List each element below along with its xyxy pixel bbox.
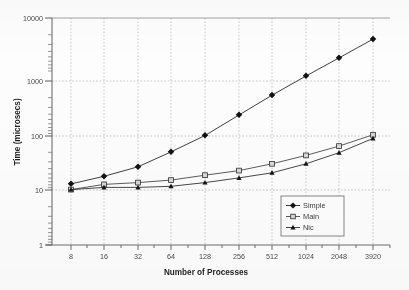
figure-background [0,0,409,290]
data-point [169,178,174,183]
square-marker-icon [291,214,296,219]
data-point [270,161,275,166]
chart-figure: 10000 1000 100 10 1 8 16 32 64 128 256 5… [0,0,409,290]
x-tick-label-512: 512 [266,252,278,261]
x-tick-label-2048: 2048 [331,252,347,261]
y-tick-label-1000: 1000 [27,77,43,86]
x-axis-title: Number of Processes [164,268,249,277]
x-tick-label-128: 128 [199,252,211,261]
data-point [203,173,208,178]
data-point [136,180,141,185]
legend-label-nic: Nic [303,223,314,232]
x-tick-label-256: 256 [233,252,245,261]
x-tick-label-16: 16 [100,252,108,261]
y-axis-title: Time (microsecs) [13,98,22,165]
chart-canvas: 10000 1000 100 10 1 8 16 32 64 128 256 5… [0,0,409,290]
x-tick-label-8: 8 [69,252,73,261]
legend-label-main: Main [303,212,319,221]
x-tick-label-64: 64 [167,252,175,261]
y-tick-label-10: 10 [35,186,43,195]
data-point [337,144,342,149]
x-tick-label-32: 32 [134,252,142,261]
x-tick-label-1024: 1024 [298,252,314,261]
data-point [304,153,309,158]
data-point [237,168,242,173]
legend-label-simple: Simple [303,201,326,210]
x-tick-label-3920: 3920 [365,252,381,261]
y-tick-label-1: 1 [39,241,43,250]
chart-legend[interactable]: Simple Main Nic [281,196,344,236]
y-tick-label-100: 100 [31,132,43,141]
y-tick-label-10000: 10000 [23,14,43,23]
